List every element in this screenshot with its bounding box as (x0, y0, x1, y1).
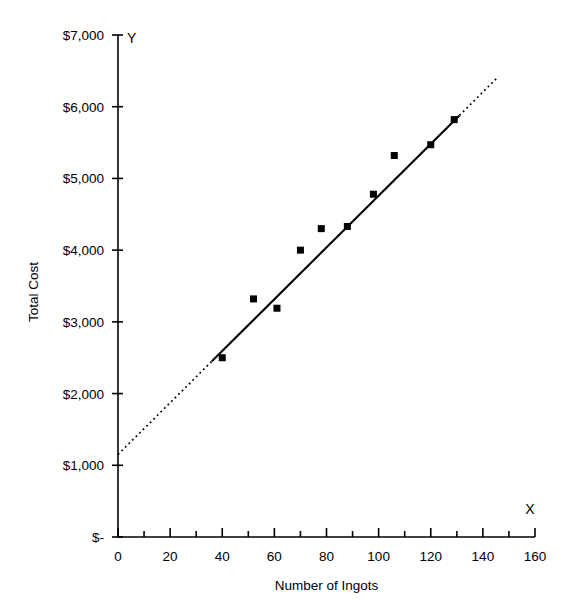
x-axis-tick-label: 100 (367, 549, 390, 564)
x-axis-tick-label: 160 (524, 549, 547, 564)
data-point (451, 116, 458, 123)
x-axis-tick-label: 0 (114, 549, 122, 564)
trend-line-extrapolation (459, 77, 498, 116)
data-point (427, 141, 434, 148)
data-point (370, 191, 377, 198)
y-axis-letter: Y (127, 30, 137, 46)
data-point (297, 247, 304, 254)
x-axis-tick-label: 60 (267, 549, 282, 564)
y-axis-title: Total Cost (26, 262, 41, 322)
data-point (344, 223, 351, 230)
data-point (273, 305, 280, 312)
y-axis-tick-label: $3,000 (63, 315, 104, 330)
scatter-plot: $-$1,000$2,000$3,000$4,000$5,000$6,000$7… (0, 0, 577, 610)
y-axis-tick-label: $6,000 (63, 100, 104, 115)
trend-line-extrapolation (118, 361, 212, 454)
x-axis-tick-label: 120 (419, 549, 442, 564)
chart-page: $-$1,000$2,000$3,000$4,000$5,000$6,000$7… (0, 0, 577, 610)
y-axis-tick-label: $- (92, 530, 104, 545)
x-axis-tick-label: 20 (163, 549, 178, 564)
y-axis-tick-label: $1,000 (63, 458, 104, 473)
y-axis-tick-label: $4,000 (63, 243, 104, 258)
data-point (250, 295, 257, 302)
x-axis-letter: X (525, 501, 535, 517)
trend-line (212, 115, 460, 361)
x-axis-tick-label: 80 (319, 549, 334, 564)
y-axis-tick-label: $7,000 (63, 28, 104, 43)
y-axis-tick-label: $5,000 (63, 171, 104, 186)
y-axis-tick-label: $2,000 (63, 387, 104, 402)
x-axis-tick-label: 140 (472, 549, 495, 564)
data-point (219, 354, 226, 361)
x-axis-tick-label: 40 (215, 549, 230, 564)
data-point (318, 225, 325, 232)
data-point (391, 152, 398, 159)
x-axis-title: Number of Ingots (275, 578, 379, 593)
